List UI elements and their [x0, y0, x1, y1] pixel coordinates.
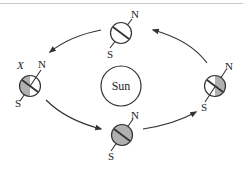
earth-bottom: N S [108, 109, 139, 162]
south-label: S [107, 48, 113, 60]
sun: Sun [101, 66, 141, 106]
arrow-bottom-to-right [143, 112, 196, 129]
south-label: S [201, 101, 207, 113]
x-marker-label: X [16, 59, 25, 71]
north-label: N [131, 109, 139, 121]
sun-label: Sun [112, 79, 131, 93]
south-label: S [15, 97, 21, 109]
arrow-right-to-top [153, 30, 207, 63]
arrow-top-to-left [50, 30, 101, 52]
orbit-diagram: Sun N S X N S N S N S [0, 0, 243, 172]
south-label: S [108, 150, 114, 162]
north-label: N [225, 60, 233, 72]
north-label: N [38, 58, 46, 70]
earth-right: N S [201, 60, 233, 113]
earth-top: N S [107, 8, 139, 60]
arrow-left-to-bottom [46, 100, 101, 129]
north-label: N [131, 8, 139, 20]
earth-left: X N S [15, 58, 46, 109]
